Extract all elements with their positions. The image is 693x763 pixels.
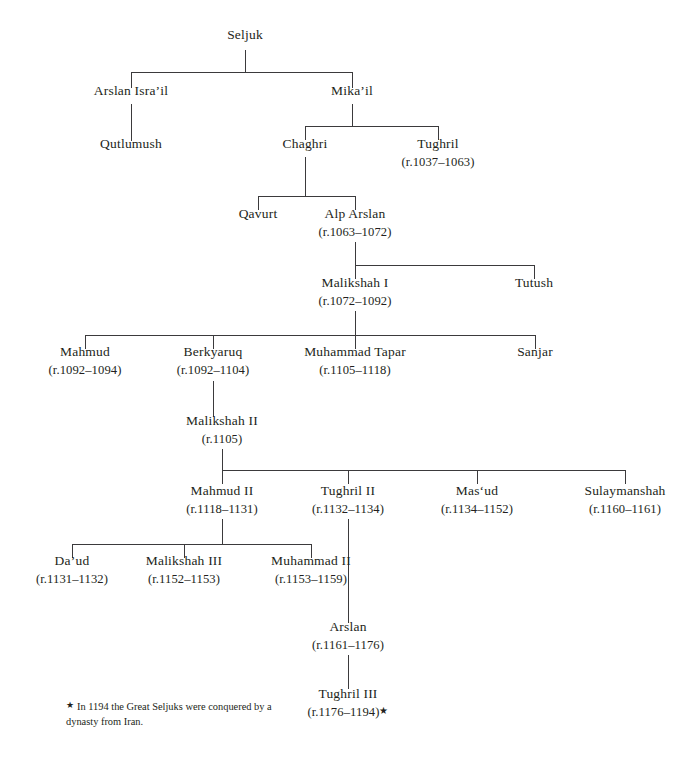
node-name: Alp Arslan: [318, 205, 391, 223]
node-name: Berkyaruq: [177, 343, 250, 361]
node-reign: (r.1118–1131): [186, 501, 258, 517]
node-mikail[interactable]: Mika’il: [331, 82, 373, 100]
connector-malikshah-ii-bar: [222, 470, 625, 471]
node-mahmud[interactable]: Mahmud (r.1092–1094): [48, 343, 121, 378]
node-reign: (r.1072–1092): [318, 293, 391, 309]
asterisk-icon: ★: [66, 700, 77, 710]
node-name: Arslan: [312, 618, 384, 636]
node-reign: (r.1105–1118): [304, 362, 406, 378]
connector-alp-arslan-stem: [355, 242, 356, 265]
node-seljuk[interactable]: Seljuk: [227, 26, 263, 44]
node-arslan-israil[interactable]: Arslan Isra’il: [94, 82, 168, 100]
connector-arslan-to-tughril-iii: [348, 655, 349, 689]
node-name: Arslan Isra’il: [94, 82, 168, 100]
node-name: Tughril III: [307, 685, 388, 703]
node-tughril[interactable]: Tughril (r.1037–1063): [401, 135, 474, 170]
node-qavurt[interactable]: Qavurt: [239, 205, 278, 223]
node-berkyaruq[interactable]: Berkyaruq (r.1092–1104): [177, 343, 250, 378]
node-name: Sanjar: [517, 343, 553, 361]
node-mahmud-ii[interactable]: Mahmud II (r.1118–1131): [186, 482, 258, 517]
node-name: Tughril II: [312, 482, 384, 500]
node-name: Da’ud: [36, 552, 108, 570]
node-reign: (r.1152–1153): [146, 571, 222, 587]
node-name: Malikshah III: [146, 552, 222, 570]
node-sanjar[interactable]: Sanjar: [517, 343, 553, 361]
node-name: Mika’il: [331, 82, 373, 100]
node-reign: (r.1092–1094): [48, 362, 121, 378]
connector-seljuk-bar: [131, 72, 352, 73]
node-daud[interactable]: Da’ud (r.1131–1132): [36, 552, 108, 587]
connector-alp-arslan-bar: [355, 265, 535, 266]
node-arslan[interactable]: Arslan (r.1161–1176): [312, 618, 384, 653]
connector-mahmud-ii-bar: [72, 544, 312, 545]
node-name: Muhammad Tapar: [304, 343, 406, 361]
node-tughril-iii[interactable]: Tughril III (r.1176–1194)★: [307, 685, 388, 720]
connector-chaghri-stem: [305, 157, 306, 196]
node-name: Malikshah I: [318, 274, 391, 292]
node-name: Mahmud II: [186, 482, 258, 500]
node-reign: (r.1160–1161): [584, 501, 665, 517]
node-name: Muhammad II: [271, 552, 351, 570]
node-tughril-ii[interactable]: Tughril II (r.1132–1134): [312, 482, 384, 517]
node-reign: (r.1131–1132): [36, 571, 108, 587]
node-reign-row: (r.1176–1194)★: [307, 704, 388, 720]
node-name: Chaghri: [283, 135, 328, 153]
node-alp-arslan[interactable]: Alp Arslan (r.1063–1072): [318, 205, 391, 240]
footnote-text: In 1194 the Great Seljuks were conquered…: [66, 701, 272, 727]
node-name: Mahmud: [48, 343, 121, 361]
node-chaghri[interactable]: Chaghri: [283, 135, 328, 153]
node-malikshah-i[interactable]: Malikshah I (r.1072–1092): [318, 274, 391, 309]
node-reign: (r.1037–1063): [401, 154, 474, 170]
connector-seljuk-stem: [245, 50, 246, 73]
connector-mikail-bar: [305, 126, 438, 127]
node-name: Tutush: [515, 274, 553, 292]
connector-mikail-stem: [352, 104, 353, 126]
node-qutlumush[interactable]: Qutlumush: [100, 135, 162, 153]
node-reign: (r.1153–1159): [271, 571, 351, 587]
node-name: Tughril: [401, 135, 474, 153]
node-name: Sulaymanshah: [584, 482, 665, 500]
node-reign: (r.1161–1176): [312, 637, 384, 653]
node-reign: (r.1176–1194): [307, 705, 379, 719]
connector-mahmud-ii-stem: [222, 519, 223, 544]
seljuk-genealogy-chart: Seljuk Arslan Isra’il Mika’il Qutlumush …: [0, 0, 693, 763]
connector-malikshah-i-stem: [355, 311, 356, 335]
connector-malikshah-i-bar: [85, 335, 536, 336]
node-name: Qavurt: [239, 205, 278, 223]
node-muhammad-ii[interactable]: Muhammad II (r.1153–1159): [271, 552, 351, 587]
node-name: Seljuk: [227, 26, 263, 44]
node-reign: (r.1134–1152): [441, 501, 513, 517]
node-reign: (r.1063–1072): [318, 224, 391, 240]
node-reign: (r.1092–1104): [177, 362, 250, 378]
node-reign: (r.1105): [186, 431, 258, 447]
node-name: Malikshah II: [186, 412, 258, 430]
node-sulaymanshah[interactable]: Sulaymanshah (r.1160–1161): [584, 482, 665, 517]
node-masud[interactable]: Mas‘ud (r.1134–1152): [441, 482, 513, 517]
node-name: Qutlumush: [100, 135, 162, 153]
footnote: ★In 1194 the Great Seljuks were conquere…: [56, 684, 286, 729]
node-muhammad-tapar[interactable]: Muhammad Tapar (r.1105–1118): [304, 343, 406, 378]
connector-malikshah-ii-stem: [222, 449, 223, 470]
connector-chaghri-bar: [258, 196, 356, 197]
node-tutush[interactable]: Tutush: [515, 274, 553, 292]
node-name: Mas‘ud: [441, 482, 513, 500]
node-malikshah-ii[interactable]: Malikshah II (r.1105): [186, 412, 258, 447]
node-reign: (r.1132–1134): [312, 501, 384, 517]
footnote-marker-icon: ★: [379, 705, 388, 716]
node-malikshah-iii[interactable]: Malikshah III (r.1152–1153): [146, 552, 222, 587]
